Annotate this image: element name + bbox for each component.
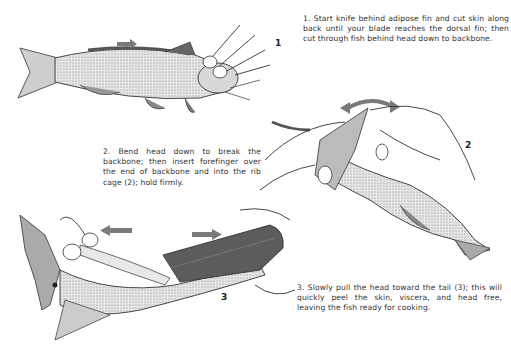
figure-1-label: 1 (275, 38, 281, 48)
pull-left-arrow-icon (100, 225, 132, 236)
peeled-skin (163, 225, 283, 282)
figure-1-illustration (0, 20, 280, 130)
fish-body (325, 150, 490, 255)
pull-right-arrow-icon (192, 229, 222, 240)
figure-3-illustration (0, 190, 300, 356)
step-3-instructions: 3. Slowly pull the head toward the tail … (297, 283, 502, 314)
figure-3-label: 3 (221, 292, 227, 302)
step-2-instructions: 2. Bend head down to break the backbone;… (103, 147, 261, 188)
bend-arrow-icon (340, 100, 400, 114)
step-1-instructions: 1. Start knife behind adipose fin and cu… (303, 14, 509, 45)
tail-fin-icon (18, 48, 58, 98)
figure-2-label: 2 (465, 140, 471, 150)
